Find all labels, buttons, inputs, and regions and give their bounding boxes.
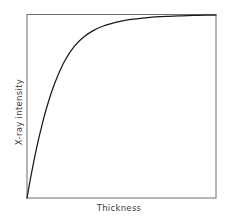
y-axis-label: X-ray intensity <box>14 47 24 177</box>
x-axis-label: Thickness <box>0 203 230 213</box>
plot-frame <box>27 15 216 199</box>
xray-intensity-chart: X-ray intensity Thickness <box>0 0 230 222</box>
plot-area <box>0 0 230 222</box>
